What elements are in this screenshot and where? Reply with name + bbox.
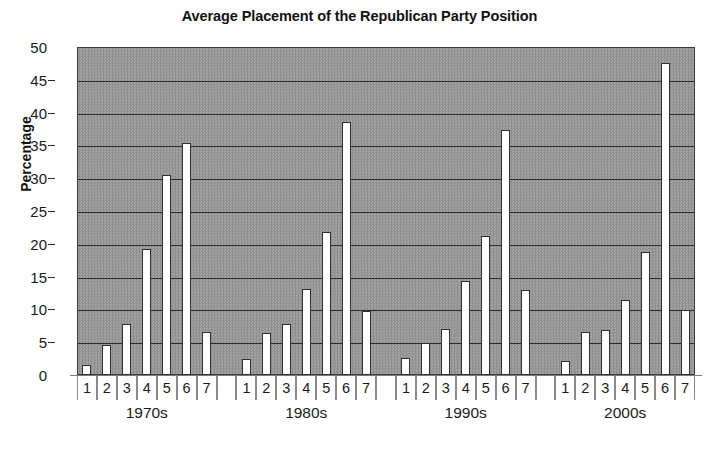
x-axis-tick-label: 2	[575, 376, 595, 400]
x-axis-group-label: 2000s	[565, 404, 685, 422]
y-axis-tick-label: 5	[39, 334, 47, 351]
y-axis-tick-label: 25	[30, 203, 47, 220]
y-axis-tick-label: 10	[30, 301, 47, 318]
bar	[362, 311, 371, 375]
y-axis-tick-label: 45	[30, 71, 47, 88]
x-axis-gap-cell	[376, 376, 396, 400]
bar	[681, 310, 690, 375]
y-axis-tick-label: 20	[30, 235, 47, 252]
y-axis-tick-label: 40	[30, 104, 47, 121]
x-axis-tick-labels: 1234567123456712345671234567	[77, 376, 695, 400]
bar	[661, 63, 670, 375]
y-axis-tick-label: 30	[30, 170, 47, 187]
bar	[581, 332, 590, 375]
x-axis-tick-label: 3	[276, 376, 296, 400]
x-axis-tick-label: 5	[635, 376, 655, 400]
bar	[242, 359, 251, 375]
bar	[122, 324, 131, 375]
bar	[461, 281, 470, 375]
bar	[142, 249, 151, 375]
bar	[521, 290, 530, 375]
bar	[501, 130, 510, 375]
bar	[621, 300, 630, 375]
bar	[421, 343, 430, 375]
bar	[641, 252, 650, 375]
x-axis-group-label: 1990s	[406, 404, 526, 422]
x-axis-tick-label: 1	[555, 376, 575, 400]
bar	[342, 122, 351, 375]
y-axis-tick-mark	[48, 80, 55, 81]
x-axis-tick-label: 6	[177, 376, 197, 400]
x-axis-tick-label: 6	[496, 376, 516, 400]
x-axis-tick-label: 4	[137, 376, 157, 400]
x-axis-tick-label: 7	[356, 376, 376, 400]
x-axis-tick-label: 1	[77, 376, 97, 400]
bar	[282, 324, 291, 375]
x-axis-tick-label: 7	[675, 376, 695, 400]
bar	[441, 329, 450, 375]
y-axis-tick-label: 15	[30, 268, 47, 285]
x-axis-tick-label: 2	[416, 376, 436, 400]
x-axis-tick-label: 3	[595, 376, 615, 400]
x-axis-tick-label: 6	[655, 376, 675, 400]
x-axis-tick-label: 3	[117, 376, 137, 400]
y-axis-tick-label: 0	[39, 367, 47, 384]
y-axis-tick-label: 35	[30, 137, 47, 154]
y-axis-tick-mark	[48, 244, 55, 245]
y-axis-tick-mark	[48, 145, 55, 146]
bar	[401, 358, 410, 375]
bar	[82, 365, 91, 375]
x-axis-tick-label: 7	[516, 376, 536, 400]
y-axis-tick-label: 50	[30, 39, 47, 56]
x-axis-tick-label: 4	[615, 376, 635, 400]
x-axis-tick-label: 6	[336, 376, 356, 400]
y-axis-tick-mark	[48, 211, 55, 212]
x-axis-group-label: 1970s	[87, 404, 207, 422]
x-axis-gap-cell	[536, 376, 556, 400]
y-axis-tick-mark	[48, 277, 55, 278]
x-axis-tick-label: 5	[476, 376, 496, 400]
bar	[182, 143, 191, 375]
x-axis-tick-label: 5	[316, 376, 336, 400]
x-axis-gap-cell	[217, 376, 237, 400]
bar	[481, 236, 490, 375]
x-axis-tick-label: 4	[296, 376, 316, 400]
y-axis-tick-mark	[48, 113, 55, 114]
x-axis-tick-label: 4	[456, 376, 476, 400]
x-axis-tick-label: 7	[197, 376, 217, 400]
y-axis-tick-mark	[48, 309, 55, 310]
y-axis-tick-mark	[48, 178, 55, 179]
x-axis-tick-label: 1	[236, 376, 256, 400]
x-axis-tick-label: 2	[256, 376, 276, 400]
bar	[601, 330, 610, 375]
y-axis-tick-mark	[48, 342, 55, 343]
x-axis-tick-label: 2	[97, 376, 117, 400]
bar-chart: Average Placement of the Republican Part…	[0, 0, 719, 453]
bar	[102, 345, 111, 375]
bar	[302, 289, 311, 375]
bars-layer	[77, 47, 695, 375]
x-axis-group-label: 1980s	[246, 404, 366, 422]
bar	[162, 175, 171, 375]
bar	[202, 332, 211, 375]
chart-title: Average Placement of the Republican Part…	[0, 8, 719, 24]
bar	[322, 232, 331, 375]
y-axis-tick-labels: 05101520253035404550	[0, 0, 77, 453]
bar	[262, 333, 271, 375]
x-axis-tick-label: 5	[157, 376, 177, 400]
bar	[561, 361, 570, 375]
x-axis-tick-label: 1	[396, 376, 416, 400]
x-axis-tick-label: 3	[436, 376, 456, 400]
